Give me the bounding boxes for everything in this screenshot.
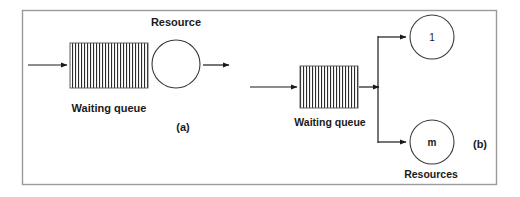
panel-a-resource-circle <box>152 40 200 88</box>
panel-b-waiting-queue <box>300 66 358 108</box>
panel-b-resources-label: Resources <box>404 168 458 180</box>
panel-b-server-label-m: m <box>428 137 437 148</box>
panel-a-queue-label: Waiting queue <box>72 102 147 114</box>
panel-a-caption: (a) <box>176 121 190 133</box>
panel-b-server-label-1: 1 <box>429 32 435 43</box>
panel-a-resource-label: Resource <box>151 16 201 28</box>
panel-a-waiting-queue <box>70 43 148 88</box>
panel-b-caption: (b) <box>473 138 487 150</box>
figure-container: Resource Waiting queue (a) 1 <box>0 0 520 197</box>
panel-b-queue-label: Waiting queue <box>294 116 366 128</box>
queueing-diagram: Resource Waiting queue (a) 1 <box>0 0 520 197</box>
